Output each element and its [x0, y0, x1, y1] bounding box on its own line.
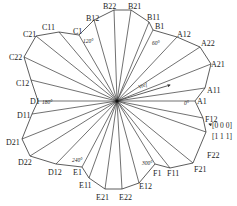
- vertex-label: F22: [207, 151, 219, 160]
- spoke-line: [22, 101, 117, 139]
- vertex-label: E12: [139, 182, 152, 191]
- spoke-line: [117, 22, 149, 101]
- vertex-label: B21: [128, 2, 141, 11]
- angle-label: 240°: [72, 157, 83, 163]
- vertex-label: B22: [103, 2, 116, 11]
- spoke-line: [117, 64, 211, 101]
- vertex-label: E11: [79, 181, 92, 190]
- vertex-label: B11: [147, 13, 160, 22]
- vertex-label: F1: [153, 169, 161, 178]
- vertex-label: A11: [207, 86, 220, 95]
- vertex-label: D21: [6, 138, 20, 147]
- spoke-line: [105, 101, 117, 189]
- spoke-line: [82, 101, 117, 167]
- spoke-line: [117, 37, 177, 101]
- angle-label: 120°: [83, 38, 94, 44]
- spoke-line: [117, 101, 206, 132]
- vertex-label: C1: [73, 27, 82, 36]
- spoke-line: [117, 101, 203, 118]
- angle-label: 300°: [141, 160, 153, 166]
- spoke-line: [114, 10, 117, 101]
- zero-vector-label: [0 0 0][1 1 1]: [209, 121, 232, 141]
- vertex-label: C11: [42, 23, 55, 32]
- vertex-label: A22: [201, 39, 215, 48]
- angle-label: 60°: [152, 40, 161, 46]
- vertex-label: D11: [17, 111, 30, 120]
- spoke-line: [117, 101, 170, 168]
- origin-point: [115, 99, 118, 102]
- vertex-label: B1: [155, 22, 164, 31]
- vertex-label: D1: [30, 97, 40, 106]
- vertex-label: F21: [194, 165, 206, 174]
- vertex-label: E21: [96, 193, 109, 202]
- spoke-line: [117, 101, 193, 163]
- vertex-label: D12: [48, 168, 62, 177]
- spoke-line: [117, 101, 122, 189]
- vertex-label: C12: [16, 79, 29, 88]
- vertex-label: A1: [197, 97, 207, 106]
- vertex-label: E22: [119, 193, 132, 202]
- vertex-label: D22: [18, 158, 32, 167]
- angle-label: 0°: [184, 100, 190, 106]
- vertex-label: A21: [211, 60, 225, 69]
- spoke-line: [117, 88, 205, 101]
- space-vector-diagram: Vref B22B21B11B1A12A22A21A11A1F12F22F21F…: [0, 0, 237, 206]
- vertex-label: A12: [177, 30, 191, 39]
- vertex-label: E1: [73, 168, 82, 177]
- spoke-line: [30, 101, 117, 156]
- vref-label: Vref: [137, 81, 149, 90]
- angle-label: 180°: [42, 99, 53, 105]
- vertex-label: C21: [23, 30, 36, 39]
- spoke-line: [117, 101, 139, 183]
- vertex-label: C22: [9, 53, 22, 62]
- vertex-label: B12: [86, 14, 99, 23]
- spoke-line: [56, 101, 117, 164]
- zero-state-000: [0 0 0]: [212, 121, 232, 130]
- spoke-line: [79, 35, 117, 101]
- spoke-line: [94, 20, 117, 101]
- spoke-line: [117, 47, 200, 101]
- spoke-line: [89, 101, 117, 178]
- vertex-label: F11: [167, 169, 179, 178]
- spoke-line: [117, 101, 155, 164]
- zero-state-111: [1 1 1]: [212, 132, 232, 141]
